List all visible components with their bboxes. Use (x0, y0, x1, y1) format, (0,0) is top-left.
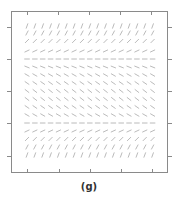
slope-segment (142, 74, 147, 77)
slope-segment (42, 152, 44, 157)
slope-segment (127, 105, 132, 108)
slope-segment (119, 50, 124, 52)
slope-segment (127, 97, 131, 100)
slope-segment (25, 74, 30, 77)
slope-segment (142, 114, 147, 117)
slope-segment (80, 105, 85, 108)
slope-segment (111, 74, 116, 77)
slope-segment (95, 97, 99, 100)
slope-segment (64, 81, 69, 84)
slope-segment (34, 145, 37, 150)
slope-segment (57, 31, 60, 36)
slope-segment (95, 130, 100, 132)
slope-segment (72, 97, 76, 100)
slope-segment (104, 145, 107, 150)
slope-segment (56, 97, 60, 100)
slope-segment (80, 81, 85, 84)
slope-segment (103, 130, 108, 132)
slope-segment (150, 74, 155, 77)
slope-segment (95, 66, 100, 68)
slope-segment (87, 50, 92, 52)
slope-segment (33, 137, 37, 141)
slope-segment (26, 23, 28, 28)
slope-segment (72, 114, 77, 117)
slope-segment (34, 152, 36, 157)
slope-segment (127, 137, 131, 141)
slope-segment (73, 23, 75, 28)
slope-segment (40, 105, 45, 108)
slope-segment (143, 89, 147, 92)
slope-segment (142, 66, 147, 68)
slope-segment (32, 50, 37, 52)
slope-segment (87, 114, 92, 117)
slope-segment (41, 89, 45, 92)
slope-segment (112, 152, 114, 157)
slope-segment (88, 105, 93, 108)
slope-segment (64, 66, 69, 68)
slope-segment (136, 145, 139, 150)
slope-segment (48, 114, 53, 117)
slope-segment (119, 137, 123, 141)
slope-segment (151, 39, 155, 43)
slope-segment (48, 89, 52, 92)
slope-segment (25, 39, 29, 43)
slope-segment (96, 145, 99, 150)
slope-segment (57, 23, 59, 28)
slope-segment (41, 137, 45, 141)
slope-segment (111, 130, 116, 132)
slope-segment (64, 50, 69, 52)
slope-segment (50, 23, 52, 28)
slope-segment (49, 31, 52, 36)
slope-segment (41, 39, 45, 43)
slope-segment (64, 114, 69, 117)
slope-segment (80, 39, 84, 43)
slope-segment (111, 50, 116, 52)
slope-segment (150, 114, 155, 117)
slope-segment (128, 145, 131, 150)
slope-segment (65, 152, 67, 157)
slope-segment (142, 130, 147, 132)
slope-segment (64, 130, 69, 132)
slope-segment (81, 31, 84, 36)
slope-segment (96, 137, 100, 141)
slope-segment (103, 66, 108, 68)
slope-segment (111, 81, 116, 84)
slope-segment (88, 81, 93, 84)
slope-segment (95, 50, 100, 52)
slope-segment (120, 152, 122, 157)
slope-segment (56, 114, 61, 117)
slope-segment (56, 81, 61, 84)
slope-segment (119, 66, 124, 68)
slope-segment (119, 114, 124, 117)
slope-segment (57, 145, 60, 150)
slope-segment (49, 145, 52, 150)
slope-segment (89, 23, 91, 28)
slope-segment (97, 152, 99, 157)
slope-segment (96, 31, 99, 36)
slope-segment (127, 74, 132, 77)
slope-segment (119, 81, 124, 84)
slope-segment (48, 74, 53, 77)
slope-segment (72, 89, 76, 92)
slope-segment (119, 89, 123, 92)
slope-segment (127, 50, 132, 52)
slope-segment (142, 105, 147, 108)
slope-segment (143, 137, 147, 141)
slope-segment (111, 137, 115, 141)
slope-segment (151, 31, 154, 36)
slope-segment (26, 31, 29, 36)
slope-segment (65, 31, 68, 36)
slope-segment (80, 114, 85, 117)
slope-segment (40, 81, 45, 84)
slope-segment (57, 152, 59, 157)
slope-segment (103, 114, 108, 117)
slope-segment (135, 89, 139, 92)
slope-segment (34, 23, 36, 28)
slope-segment (80, 89, 84, 92)
slope-segment (25, 130, 30, 132)
slope-segment (136, 23, 138, 28)
slope-segment (150, 105, 155, 108)
slope-segment (151, 137, 155, 141)
slope-segment (97, 23, 99, 28)
slope-segment (89, 152, 91, 157)
